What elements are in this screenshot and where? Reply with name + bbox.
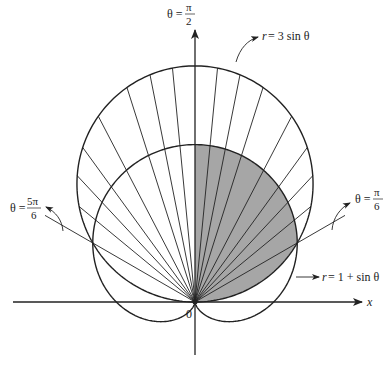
label-cardioid-equation: r = 1 + sin θ xyxy=(296,270,380,284)
polar-diagram: x 0 θ = π 2 r = 3 sin θ r = 1 + sin θ θ … xyxy=(0,0,388,367)
x-axis-label: x xyxy=(366,295,373,309)
origin-label: 0 xyxy=(186,307,192,321)
label-theta-5pi-over-6: θ = 5π 6 xyxy=(10,195,63,231)
svg-text:5π: 5π xyxy=(27,195,39,207)
svg-text:θ =: θ = xyxy=(355,192,371,206)
radial-line xyxy=(77,176,195,302)
svg-text:r: r xyxy=(262,29,267,43)
radial-line xyxy=(150,75,195,302)
svg-text:r: r xyxy=(322,270,327,284)
radial-line xyxy=(83,147,195,302)
svg-text:2: 2 xyxy=(186,15,192,27)
label-theta-pi-over-6: θ = π 6 xyxy=(332,186,383,230)
svg-text:π: π xyxy=(374,186,380,198)
svg-text:6: 6 xyxy=(374,200,380,212)
origin-point xyxy=(193,300,198,305)
svg-text:= 3 sin θ: = 3 sin θ xyxy=(268,29,310,43)
svg-text:θ =: θ = xyxy=(167,7,183,21)
radial-line xyxy=(79,206,195,302)
svg-text:θ =: θ = xyxy=(10,201,26,215)
svg-text:= 1 + sin θ: = 1 + sin θ xyxy=(328,270,380,284)
svg-text:6: 6 xyxy=(31,209,37,221)
svg-text:π: π xyxy=(186,1,192,13)
label-theta-pi-over-2: θ = π 2 xyxy=(167,1,195,27)
label-circle-equation: r = 3 sin θ xyxy=(236,29,310,62)
